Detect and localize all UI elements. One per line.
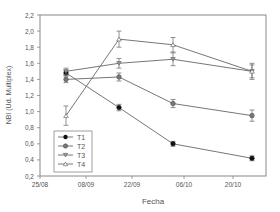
- svg-text:T3: T3: [77, 152, 85, 159]
- y-axis: 0,20,40,60,81,01,21,41,61,82,02,2: [25, 12, 40, 180]
- y-tick-label: 1,2: [25, 92, 34, 99]
- legend: T1 T2 T3 T4: [54, 131, 92, 172]
- y-tick-label: 0,6: [25, 140, 34, 147]
- data-point: [250, 113, 255, 118]
- data-point: [64, 114, 69, 118]
- y-tick-label: 0,2: [25, 173, 34, 180]
- series-t4: [64, 31, 255, 125]
- y-tick-label: 2,2: [25, 12, 34, 19]
- data-point: [171, 142, 176, 147]
- svg-text:T4: T4: [77, 161, 85, 168]
- y-tick-label: 1,8: [25, 44, 34, 51]
- x-tick-label: 25/08: [32, 181, 49, 188]
- y-tick-label: 1,0: [25, 108, 34, 115]
- y-tick-label: 2,0: [25, 28, 34, 35]
- y-tick-label: 1,4: [25, 76, 34, 83]
- x-tick-label: 06/10: [176, 181, 193, 188]
- data-point: [117, 75, 122, 80]
- gray-circle-icon: [63, 144, 67, 148]
- x-axis-label: Fecha: [142, 197, 165, 206]
- data-point: [250, 156, 255, 161]
- y-tick-label: 1,6: [25, 60, 34, 67]
- y-tick-label: 0,4: [25, 156, 34, 163]
- series-t3: [64, 53, 255, 78]
- data-point: [117, 105, 122, 110]
- svg-text:T1: T1: [77, 134, 85, 141]
- data-point: [171, 101, 176, 106]
- x-axis: 25/0808/0922/0906/1020/10: [32, 176, 242, 188]
- series-t2: [64, 73, 255, 121]
- data-point: [64, 77, 69, 82]
- svg-text:T2: T2: [77, 143, 85, 150]
- y-axis-label: NBI (Ud. Multiplex): [5, 66, 13, 125]
- x-tick-label: 20/10: [225, 181, 242, 188]
- x-tick-label: 22/09: [124, 181, 141, 188]
- filled-circle-icon: [63, 135, 67, 139]
- nbi-line-chart: 0,20,40,60,81,01,21,41,61,82,02,2 25/080…: [0, 0, 280, 212]
- y-tick-label: 0,8: [25, 124, 34, 131]
- x-tick-label: 08/09: [78, 181, 95, 188]
